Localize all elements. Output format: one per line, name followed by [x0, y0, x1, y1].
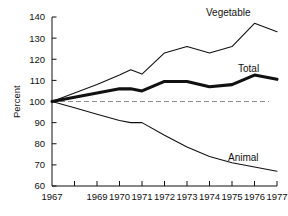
x-tick-label: 1969	[86, 191, 107, 202]
x-tick-label: 1974	[199, 191, 220, 202]
y-tick-label: 60	[34, 180, 45, 191]
y-tick-label: 140	[29, 11, 45, 22]
line-chart: 60708090100110120130140 1967196919701971…	[0, 0, 288, 216]
x-tick-label: 1972	[154, 191, 175, 202]
x-axis-tick-labels: 1967196919701971197219731974197519761977	[41, 191, 287, 202]
x-tick-label: 1971	[131, 191, 152, 202]
y-tick-label: 80	[34, 138, 45, 149]
x-tick-label: 1970	[109, 191, 130, 202]
x-axis-tickmarks	[75, 181, 278, 186]
x-tick-label: 1967	[41, 191, 62, 202]
series-label-animal: Animal	[228, 152, 259, 163]
x-tick-label: 1976	[244, 191, 265, 202]
y-tick-label: 120	[29, 54, 45, 65]
x-tick-label: 1975	[221, 191, 242, 202]
y-tick-label: 70	[34, 159, 45, 170]
y-tick-label: 130	[29, 33, 45, 44]
y-tick-label: 100	[29, 96, 45, 107]
chart-container: 60708090100110120130140 1967196919701971…	[0, 0, 288, 216]
series-label-vegetable: Vegetable	[206, 7, 251, 18]
y-tick-label: 90	[34, 117, 45, 128]
x-tick-label: 1973	[176, 191, 197, 202]
y-axis-title: Percent	[11, 85, 22, 118]
series-label-total: Total	[238, 63, 259, 74]
y-axis-tick-labels: 60708090100110120130140	[29, 11, 45, 191]
x-tick-label: 1977	[266, 191, 287, 202]
y-tick-label: 110	[30, 75, 45, 86]
